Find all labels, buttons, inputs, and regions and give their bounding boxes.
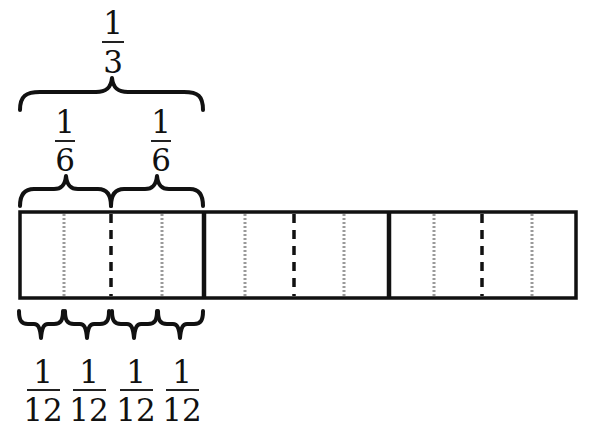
numerator: 1	[172, 354, 192, 390]
whole-bar	[20, 212, 576, 298]
fraction-label-one-third: 1 3	[102, 5, 124, 80]
fraction-label-one-sixth-2: 1 6	[151, 104, 171, 178]
fraction-label-one-twelfth-2: 1 12	[69, 354, 108, 428]
fraction-label-one-twelfth-1: 1 12	[23, 354, 62, 428]
fraction-diagram: 1 3 1 6 1 6	[0, 0, 590, 429]
brace-one-twelfth-4	[158, 311, 203, 338]
numerator: 1	[103, 5, 123, 41]
brace-one-twelfth-3	[112, 311, 157, 338]
fraction-label-one-twelfth-4: 1 12	[162, 354, 201, 428]
numerator: 1	[151, 104, 171, 140]
denominator: 12	[116, 392, 155, 428]
brace-one-third	[20, 78, 203, 110]
brace-one-twelfth-1	[19, 311, 63, 338]
denominator: 12	[162, 392, 201, 428]
denominator: 3	[103, 44, 123, 80]
fraction-label-one-sixth-1: 1 6	[55, 104, 75, 178]
brace-one-twelfth-2	[65, 311, 109, 338]
denominator: 12	[69, 392, 108, 428]
numerator: 1	[126, 354, 146, 390]
fraction-label-one-twelfth-3: 1 12	[116, 354, 155, 428]
denominator: 12	[23, 392, 62, 428]
numerator: 1	[79, 354, 99, 390]
denominator: 6	[151, 142, 171, 178]
numerator: 1	[33, 354, 53, 390]
brace-one-sixth-2	[111, 176, 203, 206]
brace-one-sixth-1	[20, 176, 111, 206]
numerator: 1	[55, 104, 75, 140]
denominator: 6	[55, 142, 75, 178]
